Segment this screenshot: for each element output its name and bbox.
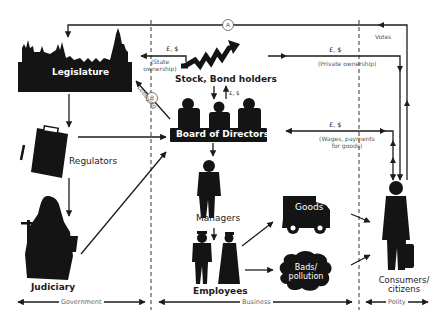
bads-label-line2: pollution <box>288 272 324 281</box>
judiciary-label: Judiciary <box>31 282 75 292</box>
state-ownership-line2: ownership) <box>140 65 180 72</box>
wages-label-line1: (Wages, payments <box>314 135 380 142</box>
rising-stock-icon <box>181 40 240 66</box>
manager-icon <box>197 160 221 218</box>
citizen-icon <box>382 181 414 270</box>
diagram-canvas <box>0 0 444 322</box>
wages-label-line2: for goods) <box>314 142 380 149</box>
consumers-label-line2: citizens <box>372 285 436 294</box>
private-ownership-line <box>268 56 400 180</box>
judiciary-to-board-arrow <box>81 152 166 254</box>
employees-icon <box>192 231 240 284</box>
wages-up-arrow <box>390 140 396 146</box>
state-money-label: £, $ <box>166 45 178 53</box>
consumers-citizens-label: Consumers/ citizens <box>372 276 436 294</box>
legislature-label: Legislature <box>52 67 109 77</box>
bads-label-line1: Bads/ <box>288 263 324 272</box>
wages-up-arrow-2 <box>390 157 396 163</box>
wages-payments-label: (Wages, payments for goods) <box>314 135 380 149</box>
votes-arrowhead <box>378 22 384 28</box>
bads-to-consumer-arrow <box>351 255 370 265</box>
board-money-label: £, $ <box>229 90 240 96</box>
clipboard-icon <box>21 126 68 178</box>
goods-to-consumer-arrow <box>351 214 370 222</box>
section-business-label: Business <box>240 298 273 306</box>
employees-to-goods-arrow <box>242 222 273 246</box>
bads-pollution-label: Bads/ pollution <box>288 263 324 281</box>
marker-a-label: A <box>224 21 232 28</box>
private-ownership-label: (Private ownership) <box>318 60 376 67</box>
goods-label: Goods <box>295 202 323 212</box>
wages-arrowhead <box>380 128 386 134</box>
marker-b-label: B <box>148 94 156 101</box>
stock-bond-holders-label: Stock, Bond holders <box>175 74 277 84</box>
employees-label: Employees <box>193 286 248 296</box>
votes-uparrow <box>404 100 410 106</box>
private-ownership-arrowhead <box>281 53 287 59</box>
state-ownership-label: (State ownership) <box>140 58 180 72</box>
regulators-label: Regulators <box>69 156 117 166</box>
managers-label: Managers <box>196 213 240 223</box>
section-polity-label: Polity <box>386 298 408 306</box>
votes-label: Votes <box>375 33 391 40</box>
section-government-label: Government <box>59 298 104 306</box>
private-money-label: £, $ <box>329 46 341 54</box>
parliament-icon <box>18 28 132 92</box>
private-ownership-down-arrow <box>397 66 403 72</box>
state-ownership-line1: (State <box>140 58 180 65</box>
wages-money-label: £, $ <box>329 121 341 129</box>
board-of-directors-label: Board of Directors <box>176 129 269 139</box>
